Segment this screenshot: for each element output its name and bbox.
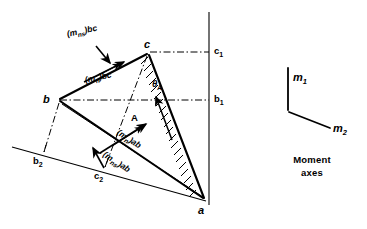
legend-label-m1: m1 <box>293 72 307 86</box>
vertex-label-b: b <box>43 94 50 105</box>
reference-label-b1: b1 <box>214 94 224 106</box>
tick-b2 <box>44 145 46 152</box>
edge-ca <box>149 55 204 198</box>
vector-arrow-edge-ca <box>156 97 172 140</box>
hatching-edge-ca <box>141 57 196 197</box>
legend-label-m2: m2 <box>333 123 347 137</box>
reference-label-c1: c1 <box>214 46 223 58</box>
projection-b-to-b2 <box>44 103 59 152</box>
reference-label-c2: c2 <box>94 171 103 183</box>
reference-label-b2: b2 <box>33 156 43 168</box>
vector-arrow-mns-bc <box>96 46 110 63</box>
legend-caption-line2: axes <box>277 168 347 178</box>
moment-vector-diagram <box>0 0 367 229</box>
angle-label-theta-a: θA <box>152 79 162 91</box>
legend-axis-m2-line <box>289 112 330 128</box>
vertex-label-c: c <box>144 39 150 50</box>
vertex-label-a: a <box>198 205 204 216</box>
legend-caption-line1: Moment <box>277 155 347 165</box>
area-label-a: A <box>131 113 138 123</box>
